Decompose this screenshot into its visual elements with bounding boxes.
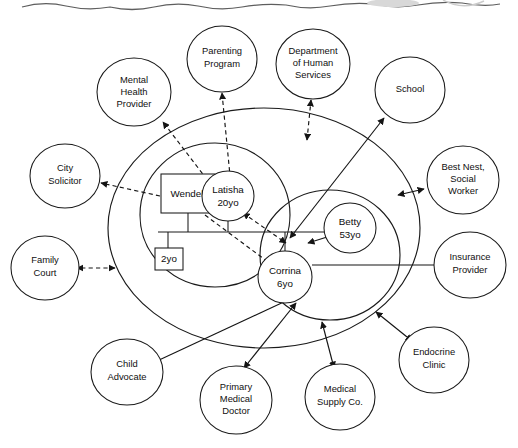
mental-health-provider-label-line1: Mental bbox=[120, 74, 148, 85]
pmd-label-line3: Doctor bbox=[222, 405, 250, 416]
ecomap-diagram: Latisha --> Latisha --> outer system -->… bbox=[0, 0, 518, 448]
city-solicitor-label-line2: Solicitor bbox=[48, 175, 81, 186]
insurance-provider-label-line1: Insurance bbox=[449, 251, 490, 262]
dhs-label-line1: Department bbox=[289, 45, 338, 56]
family-court-label-line2: Court bbox=[34, 267, 57, 278]
link-city-solicitor[interactable] bbox=[101, 183, 160, 196]
family-court-label-line1: Family bbox=[31, 254, 59, 265]
parenting-program-label-line1: Parenting bbox=[202, 45, 242, 56]
node-endocrine-clinic[interactable]: Endocrine Clinic bbox=[399, 327, 469, 393]
person-latisha[interactable]: Latisha 20yo bbox=[202, 171, 254, 221]
child-advocate-label-line1: Child bbox=[116, 358, 137, 369]
betty-label-line2: 53yo bbox=[339, 229, 361, 240]
best-nest-label-line3: Worker bbox=[448, 185, 478, 196]
node-best-nest-social-worker[interactable]: Best Nest, Social Worker bbox=[427, 146, 499, 214]
endocrine-clinic-label-line1: Endocrine bbox=[413, 346, 455, 357]
node-insurance-provider[interactable]: Insurance Provider bbox=[434, 232, 506, 298]
toddler-label: 2yo bbox=[161, 253, 177, 264]
link-best-nest-social-worker[interactable] bbox=[398, 189, 424, 195]
latisha-label-line2: 20yo bbox=[217, 197, 239, 208]
node-department-of-human-services[interactable]: Department of Human Services bbox=[276, 29, 350, 99]
link-department-of-human-services[interactable] bbox=[307, 100, 311, 140]
betty-label-line1: Betty bbox=[339, 216, 361, 227]
connection-lines: Latisha --> Latisha --> outer system -->… bbox=[77, 93, 434, 368]
node-city-solicitor[interactable]: City Solicitor bbox=[30, 144, 100, 208]
link-wendell-corrina[interactable] bbox=[205, 215, 268, 262]
node-mental-health-provider[interactable]: Mental Health Provider bbox=[97, 58, 171, 126]
link-primary-medical-doctor[interactable] bbox=[244, 303, 296, 368]
node-school[interactable]: School bbox=[375, 57, 445, 123]
node-parenting-program[interactable]: Parenting Program bbox=[187, 26, 257, 92]
node-medical-supply-co[interactable]: Medical Supply Co. bbox=[305, 364, 375, 430]
corrina-label-line1: Corrina bbox=[269, 265, 302, 276]
pmd-label-line1: Primary bbox=[220, 381, 253, 392]
endocrine-clinic-label-line2: Clinic bbox=[423, 359, 446, 370]
best-nest-label-line1: Best Nest, bbox=[441, 161, 484, 172]
pmd-label-line2: Medical bbox=[220, 393, 252, 404]
school-label: School bbox=[396, 83, 425, 94]
best-nest-label-line2: Social bbox=[450, 173, 476, 184]
latisha-label-line1: Latisha bbox=[212, 184, 244, 195]
dhs-label-line2: of Human bbox=[293, 57, 334, 68]
parenting-program-label-line2: Program bbox=[204, 58, 240, 69]
person-betty[interactable]: Betty 53yo bbox=[324, 203, 376, 253]
link-medical-supply-co[interactable] bbox=[322, 322, 334, 368]
city-solicitor-label-line1: City bbox=[57, 162, 73, 173]
corrina-label-line2: 6yo bbox=[277, 278, 293, 289]
node-family-court[interactable]: Family Court bbox=[11, 236, 79, 300]
dhs-label-line3: Services bbox=[295, 69, 331, 80]
person-toddler[interactable]: 2yo bbox=[155, 248, 183, 270]
mental-health-provider-label-line3: Provider bbox=[117, 98, 152, 109]
node-child-advocate[interactable]: Child Advocate bbox=[91, 339, 163, 405]
medical-supply-label-line2: Supply Co. bbox=[317, 396, 363, 407]
node-primary-medical-doctor[interactable]: Primary Medical Doctor bbox=[200, 366, 272, 434]
scan-edge-artifact bbox=[22, 0, 500, 10]
person-corrina[interactable]: Corrina 6yo bbox=[258, 251, 312, 303]
link-endocrine-clinic[interactable] bbox=[376, 312, 412, 341]
link-latisha-corrina[interactable] bbox=[243, 213, 286, 243]
medical-supply-label-line1: Medical bbox=[324, 383, 356, 394]
insurance-provider-label-line2: Provider bbox=[453, 264, 488, 275]
link-child-advocate[interactable] bbox=[157, 300, 288, 361]
wendell-label: Wendell bbox=[170, 188, 205, 199]
mental-health-provider-label-line2: Health bbox=[120, 86, 147, 97]
child-advocate-label-line2: Advocate bbox=[107, 371, 146, 382]
